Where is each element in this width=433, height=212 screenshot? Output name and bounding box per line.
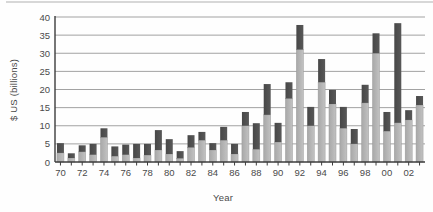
bar-upper-segment	[285, 82, 292, 98]
bar-lower-segment	[307, 126, 314, 162]
bar-lower-segment	[405, 120, 412, 162]
bar-upper-segment	[329, 90, 336, 104]
bar-lower-segment	[90, 155, 97, 162]
bar-upper-segment	[122, 145, 129, 155]
bar-lower-segment	[220, 140, 227, 162]
x-tick-label: 78	[142, 167, 153, 178]
bar-lower-segment	[416, 105, 423, 162]
bar-lower-segment	[362, 103, 369, 162]
bar-lower-segment	[155, 150, 162, 162]
x-tick-label: 00	[382, 167, 393, 178]
bar-upper-segment	[318, 59, 325, 82]
x-tick-label: 94	[316, 167, 327, 178]
x-tick-label: 98	[360, 167, 371, 178]
bar-lower-segment	[144, 155, 151, 162]
bar-lower-segment	[79, 152, 86, 162]
bar-upper-segment	[394, 23, 401, 123]
bar-lower-segment	[383, 131, 390, 162]
bar-upper-segment	[275, 123, 282, 142]
bar-upper-segment	[351, 129, 358, 144]
bar-upper-segment	[253, 123, 260, 149]
y-tick-label: 30	[39, 48, 50, 59]
y-tick-label: 0	[45, 157, 50, 168]
bar-lower-segment	[285, 99, 292, 162]
x-tick-label: 92	[295, 167, 306, 178]
bar-upper-segment	[57, 143, 64, 153]
bar-upper-segment	[79, 145, 86, 152]
x-tick-label: 86	[229, 167, 240, 178]
x-tick-label: 88	[251, 167, 262, 178]
bar-upper-segment	[188, 135, 195, 147]
bar-lower-segment	[264, 115, 271, 162]
bar-upper-segment	[177, 151, 184, 158]
bar-upper-segment	[90, 144, 97, 155]
x-tick-label: 96	[338, 167, 349, 178]
x-tick-label: 72	[77, 167, 88, 178]
bar-lower-segment	[198, 140, 205, 162]
x-tick-label: 74	[99, 167, 110, 178]
bar-upper-segment	[198, 132, 205, 140]
bar-lower-segment	[231, 154, 238, 162]
bar-upper-segment	[362, 85, 369, 103]
top-divider-rule	[6, 1, 433, 3]
x-tick-label: 02	[403, 167, 414, 178]
bar-upper-segment	[405, 110, 412, 120]
y-tick-label: 15	[39, 102, 50, 113]
bar-upper-segment	[155, 130, 162, 150]
bar-upper-segment	[307, 107, 314, 126]
bar-upper-segment	[373, 33, 380, 53]
bar-lower-segment	[329, 104, 336, 162]
bar-upper-segment	[340, 107, 347, 128]
bar-lower-segment	[351, 144, 358, 162]
x-tick-label: 84	[208, 167, 219, 178]
bar-lower-segment	[394, 123, 401, 162]
bar-lower-segment	[209, 150, 216, 162]
catastrophe-losses-bar-chart: $ US (billions) 707274767880828486889092…	[0, 0, 433, 212]
x-tick-label: 82	[186, 167, 197, 178]
y-tick-label: 5	[45, 138, 50, 149]
bar-upper-segment	[111, 146, 118, 156]
x-tick-label: 80	[164, 167, 175, 178]
y-tick-label: 35	[39, 30, 50, 41]
bar-upper-segment	[231, 144, 238, 154]
bar-lower-segment	[318, 82, 325, 162]
x-tick-label: 90	[273, 167, 284, 178]
bar-upper-segment	[133, 144, 140, 158]
plot-area: 7072747678808284868890929496980002051015…	[39, 12, 425, 179]
bar-upper-segment	[144, 144, 151, 155]
plot-svg: 7072747678808284868890929496980002051015…	[0, 0, 433, 212]
bar-lower-segment	[111, 156, 118, 162]
bar-lower-segment	[242, 126, 249, 162]
bar-lower-segment	[253, 149, 260, 162]
y-tick-label: 20	[39, 84, 50, 95]
x-tick-label: 70	[55, 167, 66, 178]
bar-lower-segment	[166, 154, 173, 162]
bar-upper-segment	[100, 128, 107, 137]
bar-lower-segment	[188, 148, 195, 163]
bar-lower-segment	[57, 153, 64, 162]
bar-upper-segment	[166, 139, 173, 154]
bar-upper-segment	[296, 25, 303, 50]
y-tick-label: 10	[39, 120, 50, 131]
bar-upper-segment	[209, 143, 216, 150]
bar-upper-segment	[242, 112, 249, 126]
y-tick-label: 25	[39, 66, 50, 77]
bar-upper-segment	[383, 112, 390, 131]
bar-lower-segment	[122, 155, 129, 162]
bar-upper-segment	[416, 96, 423, 105]
y-tick-label: 40	[39, 12, 50, 23]
y-axis-title: $ US (billions)	[8, 59, 19, 121]
bar-lower-segment	[296, 50, 303, 162]
bar-lower-segment	[275, 142, 282, 162]
bar-lower-segment	[100, 137, 107, 162]
x-tick-label: 76	[120, 167, 131, 178]
x-axis-title: Year	[213, 192, 233, 203]
bar-lower-segment	[340, 128, 347, 162]
bar-upper-segment	[220, 127, 227, 140]
bar-upper-segment	[68, 153, 75, 158]
bar-lower-segment	[373, 53, 380, 162]
bar-upper-segment	[264, 84, 271, 115]
